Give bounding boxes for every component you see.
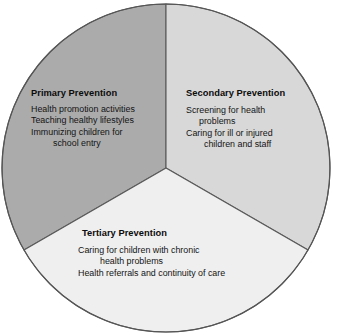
segment-secondary-line-4: children and staff [186, 139, 285, 151]
prevention-levels-diagram: Primary Prevention Health promotion acti… [0, 0, 338, 336]
segment-tertiary-line-1: Caring for children with chronic [78, 245, 225, 257]
segment-tertiary-line-3: Health referrals and continuity of care [78, 268, 225, 280]
segment-secondary-heading: Secondary Prevention [186, 88, 285, 100]
segment-primary-line-4: school entry [31, 138, 135, 150]
segment-tertiary-text-block: Tertiary Prevention Caring for children … [78, 228, 225, 279]
segment-primary-text-block: Primary Prevention Health promotion acti… [31, 88, 135, 150]
segment-secondary-line-3: Caring for ill or injured [186, 128, 285, 140]
segment-primary-line-2: Teaching healthy lifestyles [31, 115, 135, 127]
segment-primary-line-1: Health promotion activities [31, 104, 135, 116]
prevention-wheel-graphic [0, 0, 338, 336]
segment-tertiary-line-2: health problems [78, 256, 225, 268]
segment-tertiary-heading: Tertiary Prevention [82, 228, 225, 240]
segment-primary-heading: Primary Prevention [31, 88, 135, 100]
segment-secondary-line-1: Screening for health [186, 105, 285, 117]
segment-secondary-line-2: problems [186, 116, 285, 128]
segment-secondary-text-block: Secondary Prevention Screening for healt… [186, 88, 285, 151]
segment-primary-line-3: Immunizing children for [31, 127, 135, 139]
